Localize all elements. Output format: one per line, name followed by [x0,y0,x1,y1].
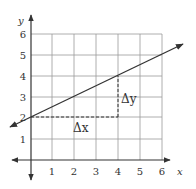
y-tick: 5 [20,50,26,61]
x-axis-label: x [177,166,183,177]
y-tick: 4 [20,71,26,82]
y-tick: 6 [20,29,26,40]
x-tick: 1 [49,166,55,177]
delta-x-label: Δx [73,121,89,135]
plotted-line [10,44,183,127]
y-tick: 2 [20,112,26,123]
y-tick: 3 [20,92,26,103]
grid [31,34,162,160]
x-tick: 4 [115,166,121,177]
x-tick: 6 [159,166,165,177]
y-tick-labels: 1 2 3 4 5 6 [20,29,26,145]
y-axis-label: y [17,15,24,26]
x-tick-labels: 1 2 3 4 5 6 [49,166,165,177]
coordinate-plane: 1 2 3 4 5 6 1 2 3 4 5 6 x y Δx Δy [0,0,196,189]
y-tick: 1 [20,134,26,145]
x-tick: 5 [137,166,143,177]
x-tick: 3 [93,166,99,177]
delta-y-label: Δy [121,92,137,106]
x-tick: 2 [71,166,77,177]
